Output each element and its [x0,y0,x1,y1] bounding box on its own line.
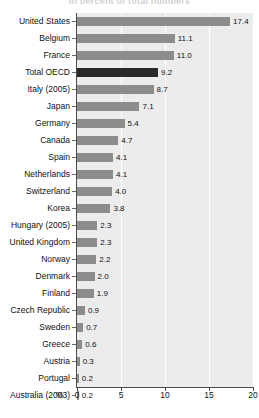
bar [77,187,112,196]
bar [77,34,175,43]
bar-row: Netherlands4.1 [0,166,259,183]
x-axis-unit-label: % [56,391,64,400]
bar-row: Australia (2003)0.2 [0,387,259,404]
y-axis-tick [72,293,76,294]
bar-category-label: Greece [0,336,72,353]
bar-category-label: France [0,47,72,64]
bar-row: Sweden0.7 [0,319,259,336]
bar [77,153,113,162]
bar-row: Canada4.7 [0,132,259,149]
y-axis-tick [72,157,76,158]
bar-row: Portugal0.2 [0,370,259,387]
bar [77,17,230,26]
bar-row: Belgium11.1 [0,30,259,47]
bar-value-label: 0.2 [79,374,93,383]
y-axis-tick [72,361,76,362]
y-axis-tick [72,327,76,328]
y-axis-line [76,13,77,387]
bar-value-label: 0.6 [82,340,96,349]
y-axis-tick [72,106,76,107]
chart-title: In percent of total numbers [0,0,259,4]
y-axis-tick [72,174,76,175]
bar-category-label: Finland [0,285,72,302]
bar [77,255,96,264]
bar [77,85,154,94]
bar-category-label: United States [0,13,72,30]
bar-category-label: Netherlands [0,166,72,183]
y-axis-tick [72,395,76,396]
bar-category-label: Italy (2005) [0,81,72,98]
bar-value-label: 8.7 [154,85,168,94]
bar [77,306,85,315]
bar-value-label: 0.7 [83,323,97,332]
y-axis-tick [72,344,76,345]
bar-row: Total OECD9.2 [0,64,259,81]
y-axis-tick [72,310,76,311]
bar-category-label: Portugal [0,370,72,387]
bar-category-label: Japan [0,98,72,115]
bar-value-label: 2.0 [95,272,109,281]
y-axis-tick [72,208,76,209]
y-axis-tick [72,55,76,56]
bar-value-label: 5.4 [125,119,139,128]
bar [77,119,125,128]
bar-row: Spain4.1 [0,149,259,166]
bar-category-label: Total OECD [0,64,72,81]
x-axis-tick-label: 15 [204,391,213,400]
bar-row: Korea3.8 [0,200,259,217]
bar [77,68,158,77]
bar-value-label: 2.3 [97,238,111,247]
bar-value-label: 9.2 [158,68,172,77]
y-axis-tick [72,191,76,192]
x-axis-tick-label: 5 [119,391,124,400]
bar-row: Austria0.3 [0,353,259,370]
bar-value-label: 11.0 [174,51,192,60]
bar-row: Japan7.1 [0,98,259,115]
bar-row: United Kingdom2.3 [0,234,259,251]
bar-value-label: 1.9 [94,289,108,298]
bar-category-label: Belgium [0,30,72,47]
bar-category-label: Korea [0,200,72,217]
bar-category-label: United Kingdom [0,234,72,251]
bar-row: Denmark2.0 [0,268,259,285]
bar-value-label: 3.8 [110,204,124,213]
bar-category-label: Spain [0,149,72,166]
bar-category-label: Norway [0,251,72,268]
bar [77,289,94,298]
bar [77,51,174,60]
bar-row: Czech Republic0.9 [0,302,259,319]
y-axis-tick [72,276,76,277]
bar-value-label: 17.4 [230,17,249,26]
bar [77,238,97,247]
bar-value-label: 11.1 [175,34,193,43]
bar-value-label: 0.9 [85,306,99,315]
y-axis-tick [72,72,76,73]
bar-category-label: Germany [0,115,72,132]
bar-category-label: Czech Republic [0,302,72,319]
x-axis-tick-label: 20 [248,391,257,400]
bar-value-label: 4.1 [113,153,127,162]
bar-value-label: 7.1 [139,102,153,111]
bar-row: Norway2.2 [0,251,259,268]
bar-row: France11.0 [0,47,259,64]
x-axis-tick-label: 10 [160,391,169,400]
bar [77,221,97,230]
bar-category-label: Denmark [0,268,72,285]
bar-value-label: 4.1 [113,170,127,179]
bar [77,102,139,111]
bar-value-label: 2.3 [97,221,111,230]
y-axis-tick [72,38,76,39]
y-axis-tick [72,89,76,90]
bar-row: United States17.4 [0,13,259,30]
bar [77,272,95,281]
bar-row: Italy (2005)8.7 [0,81,259,98]
y-axis-tick [72,123,76,124]
y-axis-tick [72,378,76,379]
bar-category-label: Canada [0,132,72,149]
y-axis-tick [72,242,76,243]
bar-category-label: Sweden [0,319,72,336]
bar-value-label: 4.7 [118,136,132,145]
bar-value-label: 4.0 [112,187,126,196]
bar-value-label: 0.2 [79,391,93,400]
y-axis-tick [72,225,76,226]
